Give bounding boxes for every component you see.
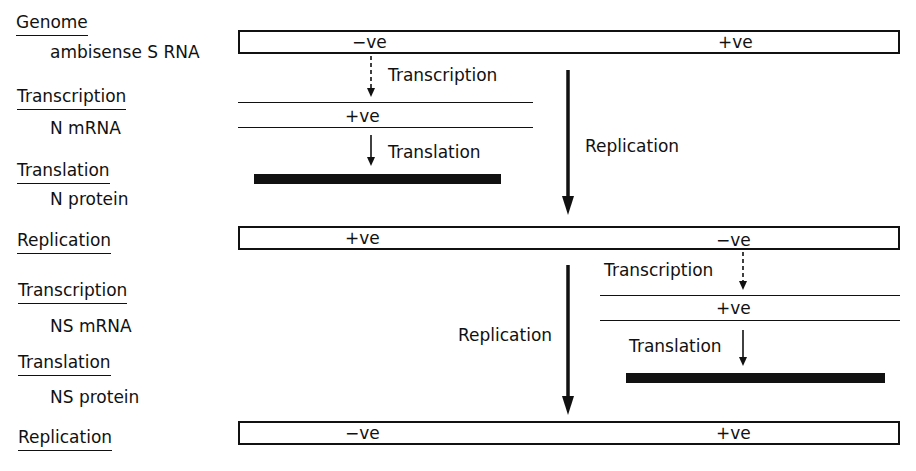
arrows-layer [0, 0, 916, 471]
arrow-down-icon [739, 330, 747, 366]
replication-arrow-down-icon [562, 70, 574, 215]
dashed-arrow-down-icon [367, 56, 375, 97]
replication-arrow-down-icon [562, 265, 574, 415]
arrow-down-icon [367, 135, 375, 166]
dashed-arrow-down-icon [739, 252, 747, 290]
